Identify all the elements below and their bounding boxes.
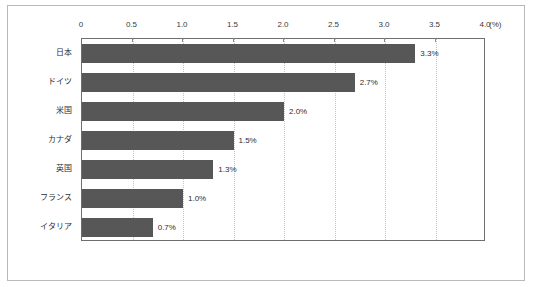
- bar-value-label: 3.3%: [420, 49, 438, 59]
- category-label: 米国: [56, 106, 72, 116]
- bar[interactable]: [82, 44, 415, 63]
- x-axis-tick-mark: [182, 38, 183, 42]
- category-label: フランス: [40, 193, 72, 203]
- y-axis-category-labels: 日本ドイツ米国カナダ英国フランスイタリア: [0, 38, 77, 241]
- bar-row[interactable]: 2.7%: [82, 73, 484, 92]
- bar[interactable]: [82, 131, 234, 150]
- bar-value-label: 1.5%: [239, 136, 257, 146]
- bar[interactable]: [82, 73, 355, 92]
- bar-row[interactable]: 1.5%: [82, 131, 484, 150]
- bar[interactable]: [82, 218, 153, 237]
- x-axis-tick-labels: 00.51.01.52.02.53.03.54.0: [81, 20, 485, 38]
- chart-figure: 00.51.01.52.02.53.03.54.0 (%) 日本ドイツ米国カナダ…: [0, 0, 533, 287]
- bar[interactable]: [82, 102, 284, 121]
- bar-row[interactable]: 0.7%: [82, 218, 484, 237]
- category-label: カナダ: [48, 135, 72, 145]
- x-axis-tick-label: 2.5: [328, 20, 339, 30]
- bar-value-label: 1.3%: [218, 165, 236, 175]
- x-axis-tick-label: 3.0: [378, 20, 389, 30]
- x-axis-tick-mark: [233, 38, 234, 42]
- plot-area: 3.3%2.7%2.0%1.5%1.3%1.0%0.7%: [81, 38, 485, 241]
- bar-row[interactable]: 1.0%: [82, 189, 484, 208]
- x-axis-tick-label: 0.5: [126, 20, 137, 30]
- bar-value-label: 2.7%: [360, 78, 378, 88]
- bar-value-label: 2.0%: [289, 107, 307, 117]
- bar-value-label: 1.0%: [188, 194, 206, 204]
- x-axis-tick-label: 2.0: [277, 20, 288, 30]
- x-axis-tick-label: 3.5: [429, 20, 440, 30]
- x-axis-tick-label: 1.0: [176, 20, 187, 30]
- bars-layer: 3.3%2.7%2.0%1.5%1.3%1.0%0.7%: [82, 39, 484, 240]
- x-axis-tick-label: 0: [79, 20, 83, 30]
- bar-row[interactable]: 2.0%: [82, 102, 484, 121]
- x-axis-unit-label: (%): [489, 20, 501, 30]
- x-axis-tick-mark: [435, 38, 436, 42]
- bar[interactable]: [82, 189, 183, 208]
- x-axis-tick-marks: [81, 38, 485, 44]
- x-axis-tick-mark: [384, 38, 385, 42]
- bar-value-label: 0.7%: [158, 223, 176, 233]
- bar-row[interactable]: 3.3%: [82, 44, 484, 63]
- x-axis-tick-mark: [132, 38, 133, 42]
- x-axis-tick-label: 1.5: [227, 20, 238, 30]
- bar[interactable]: [82, 160, 213, 179]
- bar-row[interactable]: 1.3%: [82, 160, 484, 179]
- x-axis-tick-mark: [283, 38, 284, 42]
- category-label: イタリア: [40, 222, 72, 232]
- category-label: 英国: [56, 164, 72, 174]
- x-axis-tick-mark: [334, 38, 335, 42]
- category-label: 日本: [56, 48, 72, 58]
- category-label: ドイツ: [48, 77, 72, 87]
